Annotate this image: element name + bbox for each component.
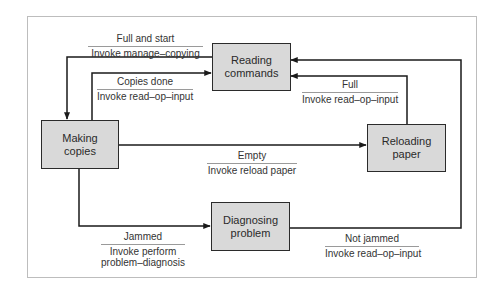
transition-condition: Jammed [101, 231, 185, 245]
state-label-line1: Reading [225, 54, 279, 67]
state-label-line2: problem [223, 227, 278, 240]
state-label-line2: commands [225, 67, 279, 80]
state-label-line1: Reloading [382, 135, 432, 148]
label-full: Full Invoke read–op–input [302, 79, 398, 105]
transition-condition: Empty [207, 150, 297, 164]
state-diagnosing-problem: Diagnosing problem [211, 202, 290, 251]
state-making-copies: Making copies [41, 120, 119, 169]
label-not-jammed: Not jammed Invoke read–op–input [325, 233, 419, 259]
label-empty: Empty Invoke reload paper [207, 150, 297, 176]
state-label-line2: paper [382, 148, 432, 161]
state-label-line1: Making [62, 132, 97, 145]
state-label-line1: Diagnosing [223, 214, 278, 227]
state-label-line2: copies [62, 145, 97, 158]
state-reading-commands: Reading commands [212, 43, 291, 91]
transition-condition: Not jammed [325, 233, 419, 247]
transition-action: Invoke read–op–input [325, 247, 419, 260]
transition-action: Invoke read–op–input [97, 90, 193, 103]
transition-action: Invoke reload paper [207, 164, 297, 177]
transition-action: Invoke read–op–input [302, 93, 398, 106]
label-copies-done: Copies done Invoke read–op–input [97, 76, 193, 102]
transition-condition: Full [302, 79, 398, 93]
arrow-jammed [79, 169, 210, 226]
transition-action-line1: Invoke perform [101, 245, 185, 258]
label-jammed: Jammed Invoke perform problem–diagnosis [101, 231, 185, 269]
transition-action-line2: problem–diagnosis [101, 257, 185, 269]
transition-condition: Copies done [97, 76, 193, 90]
transition-action: Invoke manage–copying [88, 47, 203, 60]
transition-condition: Full and start [88, 33, 203, 47]
state-reloading-paper: Reloading paper [367, 124, 446, 172]
label-full-and-start: Full and start Invoke manage–copying [88, 33, 203, 59]
